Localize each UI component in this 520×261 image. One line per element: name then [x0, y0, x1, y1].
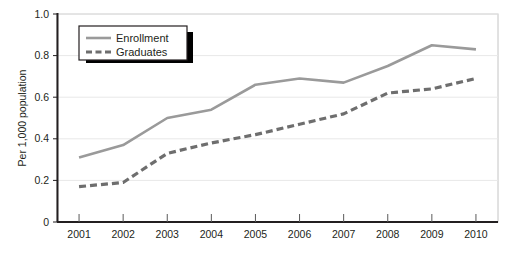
legend-label-graduates: Graduates	[116, 46, 168, 58]
chart-legend: Enrollment Graduates	[79, 26, 193, 63]
x-axis-tick-label: 2008	[376, 228, 400, 240]
y-axis-tick-label: 0.6	[34, 91, 49, 103]
x-axis-tick-label: 2006	[288, 228, 312, 240]
x-axis-tick-label: 2004	[200, 228, 224, 240]
x-axis-tick-label: 2009	[420, 228, 444, 240]
x-axis-tick-label: 2002	[111, 228, 135, 240]
y-axis-tick-label: 0	[43, 216, 49, 228]
y-axis-title: Per 1,000 population	[16, 69, 28, 166]
x-axis-tick-label: 2001	[67, 228, 91, 240]
y-axis-tick-label: 0.4	[34, 132, 49, 144]
y-axis-tick-label: 1.0	[34, 8, 49, 20]
y-axis-tick-label: 0.2	[34, 174, 49, 186]
chart-svg: 00.20.40.60.81.0 20012002200320042005200…	[0, 0, 520, 261]
legend-label-enrollment: Enrollment	[116, 32, 169, 44]
x-axis-tick-label: 2003	[156, 228, 180, 240]
x-axis-tick-label: 2007	[332, 228, 356, 240]
line-chart: 00.20.40.60.81.0 20012002200320042005200…	[0, 0, 520, 261]
y-axis-tick-label: 0.8	[34, 49, 49, 61]
x-axis-tick-label: 2010	[464, 228, 488, 240]
x-axis-tick-label: 2005	[244, 228, 268, 240]
